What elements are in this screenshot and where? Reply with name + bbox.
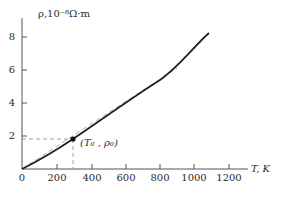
resistivity-curve (22, 33, 209, 169)
x-tick-label: 800 (145, 173, 175, 183)
t0-rho0-point (70, 136, 75, 141)
x-tick-label: 400 (77, 173, 107, 183)
y-tick-label: 4 (3, 98, 15, 108)
resistivity-chart (0, 0, 283, 199)
x-ticks (57, 164, 229, 169)
x-tick-label: 600 (111, 173, 141, 183)
x-axis-label: T, K (251, 164, 270, 174)
y-tick-label: 8 (3, 32, 15, 42)
x-tick-label: 1000 (179, 173, 209, 183)
y-tick-label: 2 (3, 131, 15, 141)
y-axis-label: ρ,10⁻⁸Ω·m (38, 9, 90, 19)
x-tick-label: 200 (42, 173, 72, 183)
y-tick-label: 6 (3, 65, 15, 75)
y-ticks (22, 37, 27, 136)
x-tick-label: 0 (7, 173, 37, 183)
point-label: (T₀ , ρ₀) (80, 138, 118, 148)
x-tick-label: 1200 (214, 173, 244, 183)
